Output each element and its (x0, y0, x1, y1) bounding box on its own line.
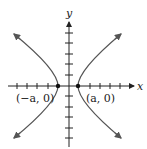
x-axis-label: x (137, 80, 144, 93)
hyperbola-diagram: y x (−a, 0) (a, 0) (0, 0, 147, 149)
vertex-right-label: (a, 0) (86, 92, 115, 105)
vertex-left-label: (−a, 0) (16, 92, 54, 105)
vertex-left-point (56, 84, 60, 88)
y-axis-label: y (65, 7, 73, 20)
vertex-right-point (76, 84, 80, 88)
